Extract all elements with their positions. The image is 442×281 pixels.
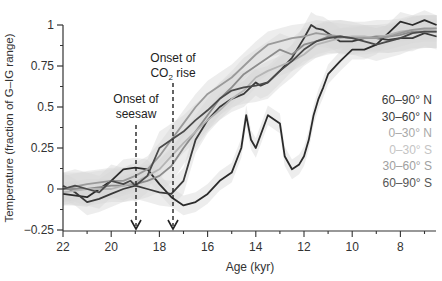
x-tick-label: 22 [56,240,70,254]
y-axis: −0.2500.250.50.751 [24,18,63,237]
legend-item: 0–30° S [389,143,432,157]
legend-item: 30–60° S [382,159,432,173]
legend-item: 60–90° N [382,93,432,107]
x-tick-label: 8 [397,240,404,254]
x-tick-label: 16 [201,240,215,254]
legend-item: 0–30° N [389,126,433,140]
co2-text: CO [150,66,168,80]
y-axis-label: Temperature (fraction of G–IG range) [3,33,15,222]
annotation-seesaw-line2: seesaw [116,107,157,121]
x-tick-label: 12 [297,240,311,254]
y-tick-label: −0.25 [24,223,55,237]
annotation-seesaw-line1: Onset of [113,92,159,106]
legend-item: 30–60° N [382,110,432,124]
y-tick-label: 0.25 [31,141,55,155]
x-tick-label: 14 [249,240,263,254]
y-tick-label: 0.75 [31,59,55,73]
legend: 60–90° N30–60° N0–30° N0–30° S30–60° S60… [382,93,432,190]
y-tick-label: 0.5 [37,100,54,114]
annotation-co2-line1: Onset of [150,51,196,65]
x-tick-label: 20 [105,240,119,254]
y-tick-label: 0 [47,182,54,196]
chart: −0.2500.250.50.751 222018161412108 Age (… [0,0,442,281]
rise-text: rise [173,66,196,80]
y-tick-label: 1 [47,18,54,32]
x-tick-label: 10 [346,240,360,254]
annotation-co2-line2: CO2 rise [150,66,195,82]
x-axis: 222018161412108 [56,231,436,254]
x-tick-label: 18 [153,240,167,254]
x-axis-label: Age (kyr) [226,260,275,274]
legend-item: 60–90° S [382,176,432,190]
